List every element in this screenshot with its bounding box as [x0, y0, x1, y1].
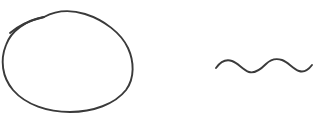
drawing-canvas — [0, 0, 316, 125]
sketch-svg — [0, 0, 316, 125]
